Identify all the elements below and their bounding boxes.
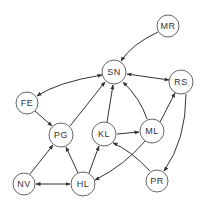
node-nv[interactable]: NV	[13, 173, 35, 195]
edge-sn-fe	[37, 75, 102, 96]
node-ml[interactable]: ML	[140, 119, 164, 143]
node-pg-label: PG	[54, 130, 68, 140]
edge-sn-rs	[127, 74, 169, 80]
edge-kl-ml	[117, 132, 139, 134]
node-mr[interactable]: MR	[157, 15, 179, 37]
node-hl-label: HL	[77, 179, 90, 189]
node-ml-label: ML	[145, 126, 159, 136]
node-nv-label: NV	[17, 179, 31, 189]
edge-mr-sn	[121, 32, 158, 61]
node-rs-label: RS	[174, 77, 188, 87]
node-fe-label: FE	[21, 98, 34, 108]
node-pr[interactable]: PR	[146, 170, 168, 192]
graph-canvas: MR SN RS FE PG KL ML NV	[0, 0, 205, 205]
node-rs[interactable]: RS	[169, 70, 193, 94]
edge-fe-pg	[35, 111, 52, 126]
edges	[30, 32, 186, 184]
node-hl[interactable]: HL	[71, 172, 95, 196]
edge-pr-kl	[113, 143, 150, 171]
edge-hl-pg	[66, 147, 78, 173]
node-kl[interactable]: KL	[92, 122, 116, 146]
edge-ml-rs	[160, 93, 175, 122]
node-pr-label: PR	[150, 176, 164, 186]
edge-nv-pg	[30, 145, 53, 174]
node-kl-label: KL	[98, 129, 110, 139]
node-mr-label: MR	[161, 21, 176, 31]
edge-rs-pr	[164, 94, 186, 171]
node-sn-label: SN	[107, 67, 121, 77]
edge-hl-kl	[89, 146, 99, 173]
node-sn[interactable]: SN	[102, 60, 126, 84]
node-pg[interactable]: PG	[49, 123, 73, 147]
edge-pg-sn	[70, 82, 105, 126]
edge-kl-sn	[107, 85, 113, 122]
edge-ml-sn	[123, 82, 147, 119]
node-fe[interactable]: FE	[16, 92, 38, 114]
